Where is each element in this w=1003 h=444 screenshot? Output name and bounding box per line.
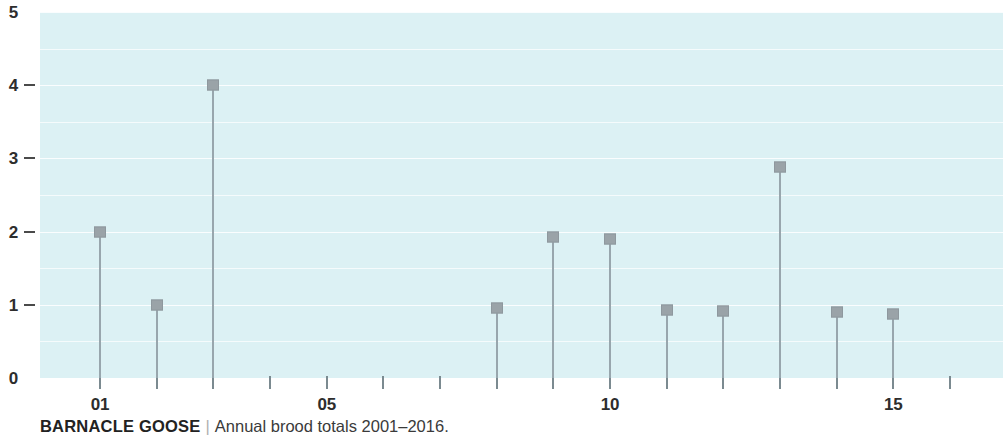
x-tick-label-01: 01: [91, 396, 110, 413]
data-point-marker[interactable]: [831, 307, 843, 318]
data-stem: [156, 305, 158, 378]
data-point-marker[interactable]: [207, 80, 219, 91]
data-stem: [779, 167, 781, 378]
x-tick-label-05: 05: [317, 396, 336, 413]
data-point-marker[interactable]: [887, 308, 899, 319]
x-tick-2005: [326, 376, 328, 389]
data-stem: [666, 310, 668, 378]
data-stem: [722, 311, 724, 378]
data-point-marker[interactable]: [151, 299, 163, 310]
data-stem: [892, 314, 894, 378]
data-stem: [212, 85, 214, 378]
data-point-marker[interactable]: [717, 305, 729, 316]
caption-title: BARNACLE GOOSE: [40, 417, 200, 435]
x-tick-label-15: 15: [884, 396, 903, 413]
data-stem: [552, 237, 554, 378]
data-stem: [496, 308, 498, 378]
caption-separator: |: [200, 417, 214, 435]
chart-figure: 012345 01051015 BARNACLE GOOSE|Annual br…: [0, 0, 1003, 444]
x-axis: 01051015: [0, 0, 1003, 444]
data-stem: [836, 312, 838, 378]
x-tick-2016: [949, 376, 951, 389]
x-tick-label-10: 10: [601, 396, 620, 413]
x-tick-2006: [382, 376, 384, 389]
x-tick-2007: [439, 376, 441, 389]
data-point-marker[interactable]: [774, 162, 786, 173]
caption-subtitle: Annual brood totals 2001–2016.: [215, 417, 449, 435]
data-point-marker[interactable]: [661, 304, 673, 315]
chart-caption: BARNACLE GOOSE|Annual brood totals 2001–…: [40, 417, 449, 435]
data-stem: [99, 232, 101, 378]
data-point-marker[interactable]: [604, 233, 616, 244]
data-point-marker[interactable]: [547, 232, 559, 243]
data-point-marker[interactable]: [94, 226, 106, 237]
x-tick-2004: [269, 376, 271, 389]
data-stem: [609, 239, 611, 378]
data-point-marker[interactable]: [491, 303, 503, 314]
